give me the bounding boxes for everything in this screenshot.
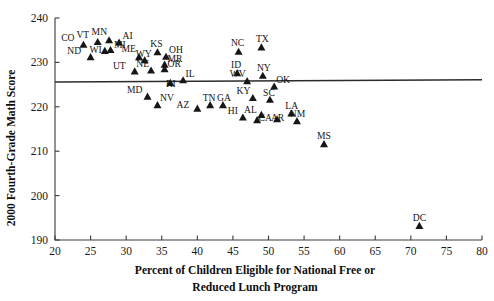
data-point-label: WV bbox=[230, 68, 246, 79]
trend-line bbox=[55, 80, 482, 82]
data-point-label: RI bbox=[166, 78, 176, 89]
data-point-label: NM bbox=[290, 108, 306, 119]
scatter-plot-figure: 20253035404550556065707580 1902002102202… bbox=[0, 0, 494, 301]
data-point-label: OR bbox=[168, 58, 182, 69]
data-point-label: AR bbox=[271, 112, 285, 123]
data-point-label: OK bbox=[276, 74, 290, 85]
x-tick-label: 60 bbox=[334, 245, 346, 257]
data-point-label: ND bbox=[67, 45, 81, 56]
x-tick-label: 40 bbox=[192, 245, 204, 257]
data-point-marker bbox=[320, 140, 328, 147]
y-tick-label: 210 bbox=[31, 145, 49, 157]
x-tick-label: 25 bbox=[85, 245, 97, 257]
data-point-marker bbox=[193, 105, 201, 112]
data-point-marker bbox=[415, 222, 423, 229]
x-tick-label: 35 bbox=[156, 245, 168, 257]
x-tick-label: 20 bbox=[49, 245, 61, 257]
y-tick-label: 240 bbox=[31, 12, 49, 24]
data-point-label: DC bbox=[413, 212, 426, 223]
data-point-label: VT bbox=[76, 29, 89, 40]
data-point-label: MD bbox=[127, 84, 143, 95]
data-point-label: UT bbox=[113, 60, 126, 71]
y-axis-title: 2000 Fourth-Grade Math Score bbox=[5, 70, 18, 227]
x-tick-label: 70 bbox=[405, 245, 417, 257]
x-tick-label: 80 bbox=[476, 245, 488, 257]
data-point-marker bbox=[101, 47, 109, 54]
y-tick-label: 200 bbox=[31, 190, 49, 202]
data-point-label: TX bbox=[256, 33, 269, 44]
x-tick-label: 45 bbox=[227, 245, 239, 257]
data-point-label: KY bbox=[236, 85, 250, 96]
data-point-label: AZ bbox=[177, 99, 190, 110]
data-point-label: ME bbox=[122, 43, 137, 54]
y-tick-label: 230 bbox=[31, 56, 49, 68]
x-axis-ticks: 20253035404550556065707580 bbox=[49, 236, 488, 258]
data-point-label: NE bbox=[136, 58, 149, 69]
data-point-label: NY bbox=[257, 62, 271, 73]
y-tick-label: 220 bbox=[31, 101, 49, 113]
scatter-plot-canvas: 20253035404550556065707580 1902002102202… bbox=[0, 0, 494, 301]
data-point-label: NC bbox=[231, 37, 244, 48]
x-tick-label: 75 bbox=[441, 245, 453, 257]
data-point-marker bbox=[153, 48, 161, 55]
data-point-label: SC bbox=[263, 87, 275, 98]
data-point-label: WI bbox=[90, 44, 102, 55]
x-axis-title-line1: Percent of Children Eligible for Nationa… bbox=[135, 264, 375, 277]
data-point-marker bbox=[144, 93, 152, 100]
data-point-label: MN bbox=[92, 26, 108, 37]
axis-spines bbox=[55, 18, 482, 240]
data-point-label: NV bbox=[160, 92, 174, 103]
x-axis-title-line2: Reduced Lunch Program bbox=[192, 281, 318, 294]
axes-group bbox=[55, 18, 482, 240]
y-tick-label: 190 bbox=[31, 234, 49, 246]
regression-line bbox=[55, 80, 482, 82]
data-point-label: CO bbox=[61, 32, 74, 43]
data-point-marker bbox=[257, 43, 265, 50]
data-point-marker bbox=[105, 36, 113, 43]
data-point-marker bbox=[259, 72, 267, 79]
data-point-label: HI bbox=[228, 105, 238, 116]
data-points-group: COVTMNAINDMIWIMEKSOHWYMRORUTNEILMDRINVNC… bbox=[61, 26, 426, 229]
data-point-label: TN bbox=[203, 92, 216, 103]
x-tick-label: 30 bbox=[120, 245, 132, 257]
data-point-marker bbox=[235, 48, 243, 55]
x-tick-label: 55 bbox=[298, 245, 310, 257]
x-tick-label: 65 bbox=[370, 245, 382, 257]
data-point-label: IL bbox=[186, 68, 195, 79]
data-point-label: MS bbox=[317, 130, 331, 141]
data-point-label: KS bbox=[150, 38, 162, 49]
data-point-label: GA bbox=[217, 92, 231, 103]
x-tick-label: 50 bbox=[263, 245, 275, 257]
data-point-label: AL bbox=[244, 104, 257, 115]
